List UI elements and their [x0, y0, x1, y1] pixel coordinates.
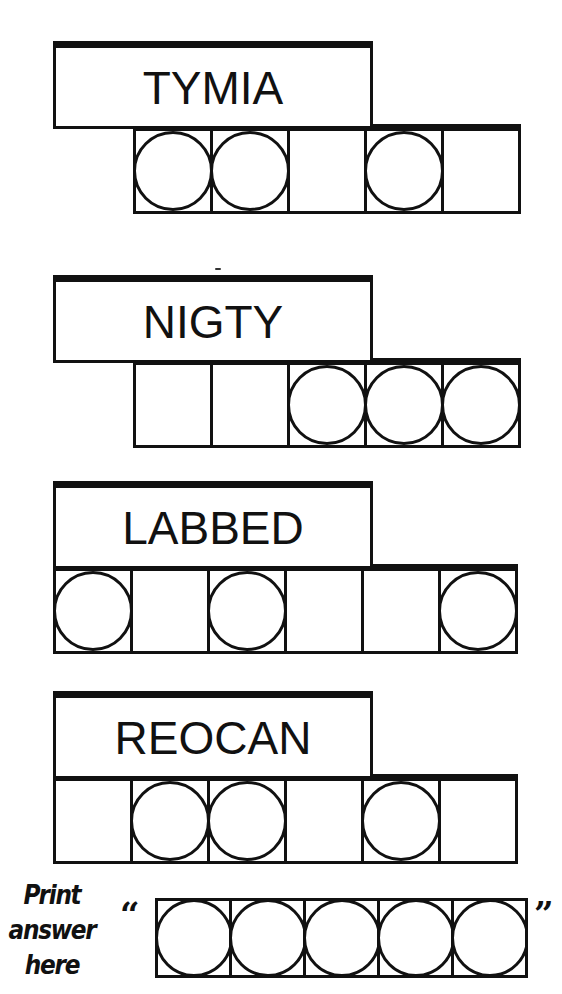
answer-letter-cell[interactable]	[377, 898, 454, 978]
letter-cell[interactable]	[287, 128, 367, 214]
scrambled-word-box: REOCAN	[53, 691, 373, 779]
answer-prompt-line: here	[7, 947, 96, 982]
circle-marker-icon	[53, 571, 133, 651]
scrambled-word-box: LABBED	[53, 481, 373, 569]
letter-cell[interactable]	[284, 568, 364, 654]
jumble-word-3: LABBED	[0, 481, 562, 661]
circle-marker-icon	[451, 899, 528, 977]
letter-cell[interactable]	[207, 778, 287, 864]
answer-letter-cell[interactable]	[229, 898, 306, 978]
letter-cell[interactable]	[364, 124, 444, 214]
letter-cell[interactable]	[287, 362, 367, 448]
circle-marker-icon	[441, 365, 521, 445]
letter-cell[interactable]	[53, 778, 133, 864]
circle-marker-icon	[155, 899, 232, 977]
circle-marker-icon	[130, 781, 210, 861]
answer-cells-row	[53, 778, 518, 864]
answer-cells-row	[133, 128, 521, 214]
letter-cell[interactable]	[53, 568, 133, 654]
final-answer-section: Print answer here “ ”	[0, 875, 562, 994]
scrambled-word: NIGTY	[143, 299, 284, 345]
circle-marker-icon	[133, 131, 213, 211]
circle-marker-icon	[207, 781, 287, 861]
answer-letter-cell[interactable]	[451, 898, 528, 978]
letter-cell[interactable]	[210, 128, 290, 214]
letter-cell[interactable]	[207, 568, 287, 654]
circle-marker-icon	[229, 899, 306, 977]
answer-prompt-line: Print	[7, 877, 96, 912]
answer-cells-row	[53, 568, 518, 654]
final-answer-cells-row	[155, 898, 528, 978]
letter-cell[interactable]	[284, 778, 364, 864]
answer-prompt-line: answer	[7, 912, 96, 947]
answer-letter-cell[interactable]	[155, 898, 232, 978]
letter-cell[interactable]	[210, 362, 290, 448]
letter-cell[interactable]	[130, 778, 210, 864]
letter-cell[interactable]	[441, 358, 521, 448]
close-quote-mark: ”	[534, 897, 554, 931]
circle-marker-icon	[287, 365, 367, 445]
scrambled-word: LABBED	[122, 505, 304, 551]
answer-letter-cell[interactable]	[303, 898, 380, 978]
circle-marker-icon	[303, 899, 380, 977]
circle-marker-icon	[364, 131, 444, 211]
letter-cell[interactable]	[361, 564, 441, 654]
circle-marker-icon	[377, 899, 454, 977]
letter-cell[interactable]	[441, 124, 521, 214]
letter-cell[interactable]	[438, 564, 518, 654]
jumble-word-2: NIGTY	[0, 275, 562, 455]
letter-cell[interactable]	[133, 128, 213, 214]
stray-mark-icon	[215, 268, 221, 270]
scrambled-word-box: NIGTY	[53, 275, 373, 363]
scrambled-word-box: TYMIA	[53, 41, 373, 129]
open-quote-mark: “	[120, 897, 140, 931]
circle-marker-icon	[361, 781, 441, 861]
letter-cell[interactable]	[438, 774, 518, 864]
letter-cell[interactable]	[133, 362, 213, 448]
letter-cell[interactable]	[364, 358, 444, 448]
circle-marker-icon	[207, 571, 287, 651]
answer-prompt: Print answer here	[7, 877, 96, 982]
circle-marker-icon	[438, 571, 518, 651]
answer-cells-row	[133, 362, 521, 448]
circle-marker-icon	[210, 131, 290, 211]
letter-cell[interactable]	[130, 568, 210, 654]
letter-cell[interactable]	[361, 774, 441, 864]
jumble-word-1: TYMIA	[0, 41, 562, 221]
scrambled-word: TYMIA	[143, 65, 284, 111]
scrambled-word: REOCAN	[115, 715, 312, 761]
jumble-word-4: REOCAN	[0, 691, 562, 871]
circle-marker-icon	[364, 365, 444, 445]
